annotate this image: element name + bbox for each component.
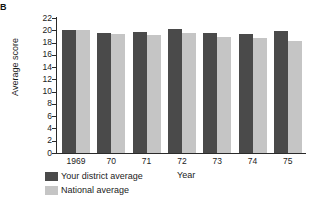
bar-group [203, 18, 231, 153]
y-tick-label-14: 14 [43, 63, 52, 72]
y-tick-label-22: 22 [43, 14, 52, 23]
legend-label: National average [61, 185, 129, 195]
y-tick-label-16: 16 [43, 50, 52, 59]
bar-group [62, 18, 90, 153]
bar-national-1969 [76, 30, 90, 153]
y-tick-label-18: 18 [43, 38, 52, 47]
plot-area [57, 18, 305, 153]
y-tick-mark-2 [52, 141, 57, 142]
x-tick-label-75: 75 [264, 156, 312, 166]
bar-national-71 [147, 35, 161, 153]
y-tick-mark-4 [52, 128, 57, 129]
y-tick-mark-10 [52, 92, 57, 93]
y-axis-title: Average score [10, 21, 20, 113]
legend-item: National average [45, 183, 143, 197]
bar-district-75 [274, 31, 288, 153]
bar-district-71 [133, 32, 147, 154]
bar-national-70 [111, 34, 125, 153]
y-tick-mark-12 [52, 79, 57, 80]
y-tick-mark-16 [52, 55, 57, 56]
bar-national-74 [253, 38, 267, 153]
bar-district-72 [168, 29, 182, 153]
y-tick-label-10: 10 [43, 87, 52, 96]
bar-chart: Average score 0246810121416182022 196970… [0, 0, 317, 206]
bar-national-72 [182, 33, 196, 153]
y-tick-mark-8 [52, 104, 57, 105]
y-tick-label-12: 12 [43, 75, 52, 84]
legend-swatch-district [45, 172, 58, 181]
y-tick-mark-0 [52, 153, 57, 154]
bar-group [274, 18, 302, 153]
legend-swatch-national [45, 186, 58, 195]
bar-national-73 [217, 37, 231, 153]
chart-legend: Your district averageNational average [45, 169, 143, 197]
y-tick-mark-14 [52, 67, 57, 68]
bar-district-74 [239, 34, 253, 153]
legend-item: Your district average [45, 169, 143, 183]
bar-district-73 [203, 33, 217, 153]
y-tick-mark-18 [52, 43, 57, 44]
legend-label: Your district average [61, 171, 143, 181]
x-axis-title: Year [177, 170, 195, 180]
bar-group [168, 18, 196, 153]
y-tick-mark-6 [52, 116, 57, 117]
y-tick-label-20: 20 [43, 26, 52, 35]
bar-group [133, 18, 161, 153]
y-tick-mark-20 [52, 30, 57, 31]
bar-district-1969 [62, 30, 76, 153]
y-tick-mark-22 [52, 18, 57, 19]
bar-national-75 [288, 41, 302, 153]
bar-district-70 [97, 33, 111, 153]
x-axis-line [56, 153, 306, 154]
bar-group [239, 18, 267, 153]
bar-group [97, 18, 125, 153]
